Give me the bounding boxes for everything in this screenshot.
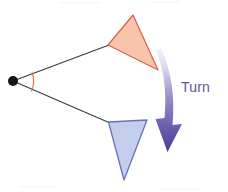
image-triangle <box>109 120 148 180</box>
turn-label: Turn <box>181 79 210 95</box>
rotation-rays <box>13 45 110 123</box>
ray-to-image <box>13 81 110 123</box>
ray-to-preimage <box>13 45 109 81</box>
turn-arrow-body <box>156 48 183 152</box>
center-of-rotation-point <box>8 76 18 86</box>
diagram-canvas <box>0 0 228 192</box>
rotation-diagram: Turn <box>0 0 228 192</box>
preimage-triangle <box>108 15 158 70</box>
turn-arrow <box>156 48 183 152</box>
